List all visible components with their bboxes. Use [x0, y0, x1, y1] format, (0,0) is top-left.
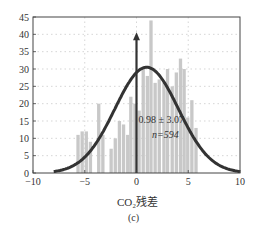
histogram-bar [153, 83, 156, 173]
histogram-bar [118, 121, 121, 173]
svg-text:35: 35 [19, 46, 29, 57]
histogram-bar [126, 135, 129, 173]
histogram-bar [89, 142, 92, 173]
histogram-bar [101, 135, 104, 173]
histogram-bar [109, 149, 112, 173]
svg-text:40: 40 [19, 29, 29, 40]
svg-text:30: 30 [19, 64, 29, 75]
histogram-bar [158, 79, 161, 173]
histogram-bar [194, 128, 197, 173]
histogram-bar [149, 20, 152, 173]
svg-text:−5: −5 [79, 176, 90, 187]
histogram-bar [122, 124, 125, 173]
svg-text:45: 45 [19, 12, 29, 23]
svg-text:10: 10 [235, 176, 245, 187]
svg-text:0: 0 [134, 176, 139, 187]
svg-text:−10: −10 [25, 176, 41, 187]
svg-text:5: 5 [186, 176, 191, 187]
svg-text:10: 10 [19, 133, 29, 144]
x-axis-label: CO₂残差 [117, 193, 158, 209]
histogram-bar [76, 135, 79, 173]
sample-size-annotation: n=594 [152, 129, 179, 140]
mean-sd-annotation: 0.98 ± 3.07 [139, 114, 185, 125]
histogram-bar [114, 138, 117, 173]
svg-text:25: 25 [19, 81, 29, 92]
histogram-bar [81, 131, 84, 173]
svg-text:15: 15 [19, 116, 29, 127]
histogram-bar [162, 83, 165, 173]
svg-text:20: 20 [19, 98, 29, 109]
figure-caption: (c) [128, 212, 139, 223]
histogram-bar [129, 97, 132, 173]
svg-text:5: 5 [24, 150, 29, 161]
